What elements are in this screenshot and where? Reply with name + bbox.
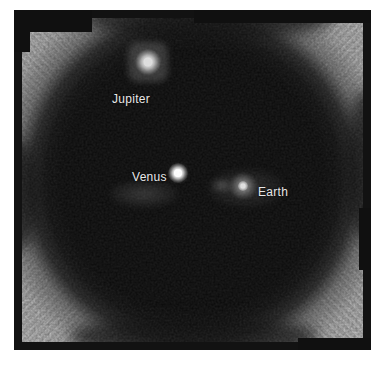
frame-patch-top-left-side: [14, 10, 30, 52]
astronomical-photo: Jupiter Venus Earth: [14, 10, 371, 350]
venus-dot: [174, 169, 182, 177]
dark-smudge-bottom: [69, 316, 319, 350]
earth-dot: [238, 181, 248, 191]
frame-patch-right-middle: [359, 208, 371, 270]
jupiter-label: Jupiter: [112, 92, 150, 106]
frame-patch-top-right: [194, 10, 371, 23]
jupiter-glow: [128, 42, 168, 82]
earth-label: Earth: [258, 185, 288, 199]
dust-cloud-left-of-venus: [108, 180, 180, 208]
venus-label: Venus: [132, 170, 167, 184]
occulting-dark-disk: [14, 10, 371, 350]
frame-patch-bottom-right: [298, 338, 371, 350]
